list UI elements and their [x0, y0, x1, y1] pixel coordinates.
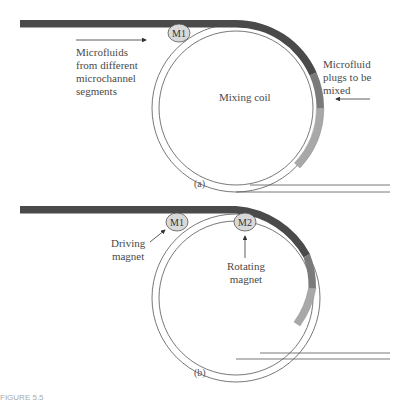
magnet-m1-label: M1 [170, 217, 184, 228]
inflow-label: Microfluids from different microchannel … [76, 46, 138, 98]
caption-b: (b) [194, 367, 206, 378]
coil-inner-ring [159, 31, 313, 185]
driving-magnet-label: Driving magnet [111, 237, 145, 263]
fluid-plug-mid [310, 73, 324, 108]
fluid-plug-light [295, 108, 325, 168]
fluid-arc-dark [236, 20, 317, 76]
driving-arrow [150, 230, 165, 242]
coil-inner-ring [159, 221, 313, 375]
figure-label: FIGURE 5.5 [0, 393, 44, 400]
plugs-label: Microfluid plugs to be mixed [323, 58, 371, 97]
caption-a: (a) [194, 178, 205, 189]
inlet-channel [20, 20, 236, 28]
fluid-plug-mid [304, 254, 317, 288]
magnet-m2-label: M2 [238, 217, 252, 228]
inlet-channel [20, 206, 236, 214]
magnet-m1-label: M1 [172, 28, 186, 39]
panel-b: M1 M2 [20, 206, 390, 382]
rotating-magnet-label: Rotating magnet [227, 260, 265, 286]
mixing-coil-label: Mixing coil [219, 91, 271, 104]
